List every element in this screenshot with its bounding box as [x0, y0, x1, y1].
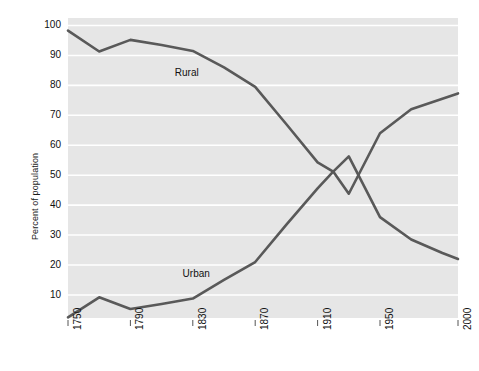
y-tick-label: 100	[35, 20, 61, 30]
y-axis-title: Percent of population	[30, 153, 40, 240]
x-tick-label: 1950	[385, 308, 395, 330]
y-tick-label: 60	[35, 140, 61, 150]
y-tick-label: 40	[35, 200, 61, 210]
y-tick-label: 90	[35, 50, 61, 60]
y-tick-label: 20	[35, 260, 61, 270]
population-urban-rural-line-chart: Percent of population 102030405060708090…	[0, 0, 479, 371]
y-tick-label: 70	[35, 110, 61, 120]
y-tick-label: 80	[35, 80, 61, 90]
y-tick-label: 50	[35, 170, 61, 180]
series-label-urban: Urban	[183, 268, 210, 279]
x-tick-label: 1870	[260, 308, 270, 330]
x-tick-label: 2000	[463, 308, 473, 330]
y-tick-label: 10	[35, 290, 61, 300]
series-label-rural: Rural	[175, 67, 199, 78]
plot-background	[68, 18, 458, 318]
x-tick-label: 1750	[73, 308, 83, 330]
x-tick-label: 1910	[323, 308, 333, 330]
y-tick-label: 30	[35, 230, 61, 240]
x-tick-label: 1790	[135, 308, 145, 330]
x-tick-label: 1830	[198, 308, 208, 330]
